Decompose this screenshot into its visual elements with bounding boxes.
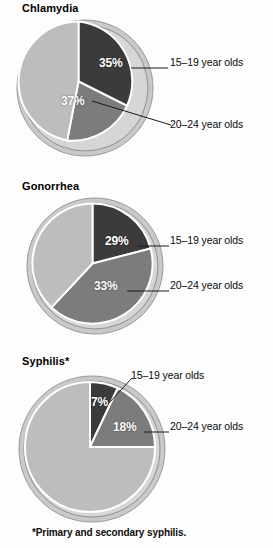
pie-chart-syphilis: Syphilis* 7% 18% 15–19 year olds 20–24 y… — [0, 355, 273, 548]
leader-line-20-24 — [126, 285, 171, 297]
leader-line-20-24 — [143, 426, 171, 438]
series-label-20-24: 20–24 year olds — [170, 279, 243, 291]
series-label-20-24: 20–24 year olds — [170, 420, 243, 432]
pie-svg-gonorrhea — [26, 197, 164, 335]
chart-title-gonorrhea: Gonorrhea — [22, 180, 79, 192]
leader-line-15-19 — [137, 240, 171, 252]
series-label-20-24: 20–24 year olds — [170, 118, 243, 130]
series-label-15-19: 15–19 year olds — [131, 369, 204, 381]
pie-value-label-20-24: 33% — [94, 279, 117, 293]
pie-value-label-15-19: 29% — [105, 234, 128, 248]
figure-footnote: *Primary and secondary syphilis. — [32, 527, 186, 538]
pie-value-label-15-19: 35% — [99, 56, 122, 70]
leader-line-15-19 — [104, 376, 134, 406]
leader-line-20-24 — [91, 97, 173, 129]
pie-graphic-chlamydia — [16, 19, 154, 157]
pie-chart-chlamydia: Chlamydia 35% 37% 15–19 year olds 20–24 … — [0, 0, 273, 175]
pie-svg-chlamydia — [16, 19, 154, 157]
pie-graphic-gonorrhea — [26, 197, 164, 335]
leader-line-15-19 — [130, 62, 170, 74]
pie-value-label-20-24: 18% — [113, 420, 136, 434]
chart-title-syphilis: Syphilis* — [22, 355, 69, 367]
series-label-15-19: 15–19 year olds — [170, 56, 243, 68]
figure-page: Chlamydia 35% 37% 15–19 year olds 20–24 … — [0, 0, 273, 548]
series-label-15-19: 15–19 year olds — [170, 234, 243, 246]
pie-chart-gonorrhea: Gonorrhea 29% 33% 15–19 year olds 20–24 … — [0, 178, 273, 353]
pie-value-label-20-24: 37% — [61, 94, 84, 108]
chart-title-chlamydia: Chlamydia — [22, 2, 79, 14]
